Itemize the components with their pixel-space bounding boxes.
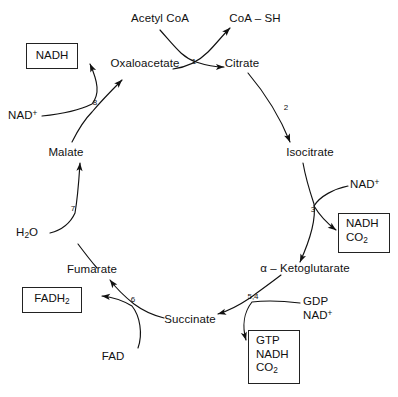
arrow-h2o-to-malate [50, 163, 80, 233]
label-coa-sh: CoA – SH [229, 12, 280, 25]
product-box-gtp-nadh-co2: GTP NADH CO2 [248, 330, 300, 384]
product-box-nadh-co2-line-2: CO2 [346, 231, 382, 246]
product-box-fadh2: FADH2 [22, 287, 82, 313]
product-box-gtp-line-1: GTP [256, 334, 292, 348]
product-box-fadh2-line-1: FADH2 [34, 292, 69, 307]
step-number-8: 8 [93, 98, 97, 107]
label-nad-plus-bottom-charge: + [328, 309, 333, 318]
label-nad-plus-right-text: NAD [350, 178, 375, 190]
arrow-oxaloacetate-to-coash [173, 28, 230, 69]
product-box-nadh-line-1: NADH [36, 49, 69, 63]
label-nad-plus-right: NAD+ [350, 178, 380, 191]
label-nad-plus-left-charge: + [33, 109, 38, 118]
label-water-o: O [29, 226, 38, 238]
product-box-gtp-line-3: CO2 [256, 361, 292, 376]
step-number-7: 7 [71, 204, 75, 213]
label-nad-plus-bottom: NAD+ [303, 309, 333, 322]
step-number-2: 2 [284, 103, 288, 112]
label-citrate: Citrate [225, 57, 260, 70]
product-box-nadh-co2: NADH CO2 [338, 213, 390, 253]
label-gdp: GDP [303, 295, 328, 308]
step-number-6: 6 [131, 295, 135, 304]
product-box-nadh-co2-co: CO [346, 231, 363, 243]
label-succinate: Succinate [164, 313, 215, 326]
label-fumarate: Fumarate [67, 263, 117, 276]
product-box-gtp-line-2: NADH [256, 348, 292, 362]
product-box-fadh2-text: FADH [34, 292, 65, 304]
label-oxaloacetate: Oxaloacetate [111, 57, 180, 70]
label-nad-plus-left: NAD+ [8, 109, 38, 122]
label-acetyl-coa: Acetyl CoA [131, 12, 189, 25]
step-number-5-4: 5,4 [247, 292, 258, 301]
product-box-gtp-co: CO [256, 361, 273, 373]
step-number-3: 3 [311, 205, 315, 214]
label-alpha-ketoglutarate: α – Ketoglutarate [260, 262, 350, 275]
step-number-1: 1 [192, 57, 196, 66]
label-fad: FAD [102, 350, 125, 363]
label-malate: Malate [48, 146, 83, 159]
product-box-nadh: NADH [26, 43, 78, 69]
label-alpha-ketoglutarate-text: α – Ketoglutarate [260, 262, 350, 274]
label-isocitrate: Isocitrate [286, 146, 334, 159]
product-box-fadh2-count: 2 [65, 297, 70, 306]
product-box-nadh-co2-count: 2 [363, 235, 368, 244]
label-nad-plus-bottom-text: NAD [303, 309, 328, 321]
product-box-nadh-co2-line-1: NADH [346, 217, 382, 231]
arrow-nadplus-to-nadh [42, 64, 97, 116]
citric-acid-cycle-diagram: Acetyl CoA CoA – SH Oxaloacetate Citrate… [0, 0, 398, 397]
label-water: H2O [16, 226, 38, 240]
product-box-gtp-count: 2 [273, 366, 278, 375]
label-nad-plus-right-charge: + [375, 178, 380, 187]
label-nad-plus-left-text: NAD [8, 109, 33, 121]
